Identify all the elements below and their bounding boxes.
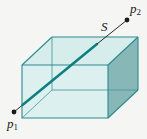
box-front-face: [22, 65, 108, 118]
label-p2-subscript: 2: [137, 7, 142, 17]
geometry-figure-svg: p1 p2 S: [0, 0, 147, 139]
point-p2-dot: [125, 18, 130, 23]
point-p1-dot: [12, 110, 17, 115]
label-s: S: [101, 19, 108, 34]
geometry-figure: p1 p2 S: [0, 0, 147, 139]
label-p1-subscript: 1: [14, 122, 19, 132]
